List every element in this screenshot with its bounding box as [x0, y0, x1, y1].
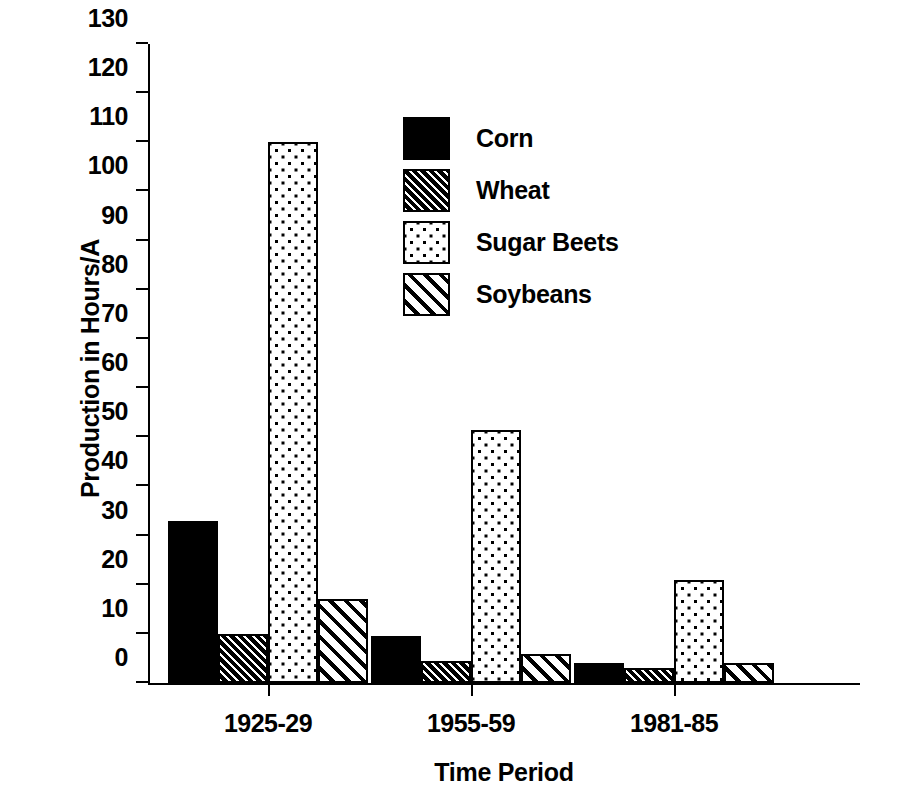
y-tick-label: 50	[48, 399, 128, 424]
y-tick-mark	[136, 435, 148, 437]
y-axis-line	[148, 44, 150, 685]
y-tick-mark	[136, 632, 148, 634]
legend: CornWheatSugar BeetsSoybeans	[403, 112, 619, 320]
y-tick-label: 10	[48, 596, 128, 621]
bar	[371, 636, 421, 683]
y-tick-label: 20	[48, 547, 128, 572]
y-tick-mark	[136, 386, 148, 388]
y-tick-label: 80	[48, 252, 128, 277]
bar	[521, 654, 571, 683]
y-tick-mark	[136, 189, 148, 191]
y-tick-label: 40	[48, 448, 128, 473]
x-tick-label: 1925-29	[224, 709, 312, 738]
bar-chart: Production in Hours/A 010203040506070809…	[0, 0, 897, 788]
bar	[318, 599, 368, 683]
y-tick-label: 60	[48, 350, 128, 375]
x-tick-mark	[268, 683, 270, 696]
legend-label: Corn	[476, 124, 533, 153]
y-tick-label: 100	[48, 153, 128, 178]
y-tick-mark	[136, 583, 148, 585]
bar	[168, 521, 218, 683]
legend-item: Corn	[403, 112, 619, 164]
legend-swatch	[403, 273, 450, 316]
bar	[574, 663, 624, 683]
y-tick-mark	[136, 91, 148, 93]
y-tick-label: 70	[48, 301, 128, 326]
legend-swatch	[403, 169, 450, 212]
bar	[674, 580, 724, 683]
legend-label: Sugar Beets	[476, 228, 619, 257]
y-tick-mark	[136, 288, 148, 290]
y-tick-mark	[136, 484, 148, 486]
legend-swatch	[403, 117, 450, 160]
y-tick-label: 0	[48, 645, 128, 670]
y-tick-mark	[136, 42, 148, 44]
bar	[218, 634, 268, 683]
y-tick-mark	[136, 681, 148, 683]
x-axis-line	[148, 683, 860, 685]
bar	[268, 142, 318, 683]
y-tick-label: 90	[48, 203, 128, 228]
x-tick-label: 1981-85	[630, 709, 718, 738]
y-tick-mark	[136, 534, 148, 536]
bar	[471, 430, 521, 683]
legend-item: Wheat	[403, 164, 619, 216]
legend-swatch	[403, 221, 450, 264]
x-axis-title: Time Period	[148, 758, 860, 787]
x-tick-label: 1955-59	[427, 709, 515, 738]
y-tick-mark	[136, 337, 148, 339]
bar	[421, 661, 471, 683]
legend-item: Soybeans	[403, 268, 619, 320]
bar	[624, 668, 674, 683]
y-tick-label: 30	[48, 498, 128, 523]
y-tick-mark	[136, 239, 148, 241]
x-tick-mark	[674, 683, 676, 696]
legend-item: Sugar Beets	[403, 216, 619, 268]
y-tick-mark	[136, 140, 148, 142]
legend-label: Wheat	[476, 176, 550, 205]
x-tick-mark	[471, 683, 473, 696]
y-tick-label: 120	[48, 55, 128, 80]
bar	[724, 663, 774, 683]
y-tick-label: 110	[48, 104, 128, 129]
y-tick-label: 130	[48, 6, 128, 31]
legend-label: Soybeans	[476, 280, 592, 309]
